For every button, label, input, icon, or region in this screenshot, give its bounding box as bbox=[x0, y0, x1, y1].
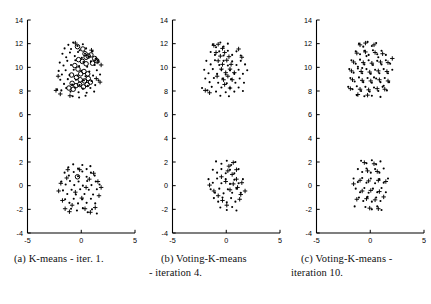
data-point-dot bbox=[213, 77, 215, 79]
data-point-dot bbox=[210, 188, 212, 190]
data-point-plus bbox=[67, 210, 71, 214]
data-point-dot bbox=[220, 168, 222, 170]
data-point-plus bbox=[96, 179, 100, 183]
data-point-dot bbox=[209, 81, 211, 83]
data-point-dot bbox=[371, 201, 373, 203]
data-point-plus bbox=[216, 194, 220, 198]
y-tick-label: 2 bbox=[308, 158, 312, 167]
data-point-dot bbox=[364, 86, 366, 88]
data-point-dot bbox=[368, 54, 370, 56]
data-point-dot bbox=[231, 54, 233, 56]
data-point-plus bbox=[219, 175, 223, 179]
data-point-dot bbox=[353, 72, 355, 74]
data-point-dot bbox=[67, 78, 69, 80]
data-point-plus bbox=[225, 58, 229, 62]
data-point-dot bbox=[90, 198, 92, 200]
data-point-dot bbox=[63, 83, 65, 85]
data-point-dot bbox=[214, 59, 216, 61]
data-point-dot bbox=[385, 191, 387, 193]
data-point-dot bbox=[383, 167, 385, 169]
data-point-dot bbox=[357, 168, 359, 170]
data-point-plus bbox=[224, 70, 228, 74]
data-point-dot bbox=[361, 67, 363, 69]
data-point-dot bbox=[235, 209, 237, 211]
data-point-dot bbox=[78, 96, 80, 98]
data-point-dot bbox=[238, 86, 240, 88]
data-point-plus bbox=[356, 92, 360, 96]
data-point-dot bbox=[86, 180, 88, 182]
data-point-dot bbox=[69, 180, 71, 182]
data-point-plus bbox=[99, 185, 103, 189]
data-point-plus bbox=[224, 179, 228, 183]
series-plus bbox=[203, 42, 247, 207]
data-point-dot bbox=[207, 178, 209, 180]
data-point-dot bbox=[77, 202, 79, 204]
data-point-plus bbox=[99, 63, 103, 67]
data-point-dot bbox=[215, 46, 217, 48]
data-point-plus bbox=[222, 50, 226, 54]
data-point-plus bbox=[239, 192, 243, 196]
y-tick-label: 8 bbox=[308, 87, 312, 96]
caption-a: (a) K-means - iter. 1. bbox=[0, 252, 157, 266]
data-point-dot bbox=[234, 201, 236, 203]
data-point-dot bbox=[201, 87, 203, 89]
data-point-dot bbox=[355, 188, 357, 190]
data-point-dot bbox=[353, 178, 355, 180]
data-point-dot bbox=[244, 63, 246, 65]
data-point-dot bbox=[82, 185, 84, 187]
data-point-dot bbox=[70, 208, 72, 210]
data-point-plus bbox=[207, 183, 211, 187]
data-point-dot bbox=[70, 64, 72, 66]
data-point-dot bbox=[347, 86, 349, 88]
data-point-dot bbox=[203, 69, 205, 71]
data-point-dot bbox=[216, 172, 218, 174]
data-point-dot bbox=[61, 73, 63, 75]
data-point-dot bbox=[372, 49, 374, 51]
data-point-dot bbox=[86, 176, 88, 178]
data-point-dot bbox=[226, 160, 228, 162]
data-point-dot bbox=[65, 56, 67, 58]
data-point-dot bbox=[374, 182, 376, 184]
data-point-dot bbox=[372, 188, 374, 190]
data-point-circle bbox=[67, 86, 72, 91]
data-point-plus bbox=[240, 181, 244, 185]
data-point-dot bbox=[380, 187, 382, 189]
data-point-dot bbox=[60, 89, 62, 91]
caption-c-line-2: iteration 10. bbox=[291, 266, 431, 280]
series-plus bbox=[348, 41, 394, 211]
data-point-dot bbox=[71, 189, 73, 191]
data-point-dot bbox=[226, 209, 228, 211]
data-point-dot bbox=[362, 200, 364, 202]
data-point-plus bbox=[68, 94, 72, 98]
data-point-plus bbox=[58, 92, 62, 96]
data-point-dot bbox=[81, 164, 83, 166]
data-point-dot bbox=[82, 43, 84, 45]
data-point-dot bbox=[384, 77, 386, 79]
data-point-dot bbox=[383, 68, 385, 70]
data-point-dot bbox=[92, 75, 94, 77]
data-point-dot bbox=[64, 172, 66, 174]
data-point-dot bbox=[221, 196, 223, 198]
data-point-dot bbox=[357, 181, 359, 183]
data-point-dot bbox=[373, 86, 375, 88]
data-point-plus bbox=[216, 59, 220, 63]
x-tick-label: 5 bbox=[422, 236, 426, 245]
data-point-dot bbox=[350, 59, 352, 61]
data-point-dot bbox=[73, 171, 75, 173]
data-point-dot bbox=[231, 206, 233, 208]
data-point-dot bbox=[380, 209, 382, 211]
y-tick-label: -2 bbox=[306, 205, 312, 214]
x-tick-label: 0 bbox=[224, 236, 228, 245]
data-point-circle bbox=[84, 62, 89, 67]
data-point-dot bbox=[204, 78, 206, 80]
data-point-dot bbox=[64, 47, 66, 49]
data-point-dot bbox=[77, 51, 79, 53]
data-point-plus bbox=[227, 54, 231, 58]
data-point-plus bbox=[83, 207, 87, 211]
data-point-dot bbox=[354, 205, 356, 207]
caption-b-line-1: (b) Voting-K-means bbox=[161, 252, 304, 266]
data-point-dot bbox=[371, 159, 373, 161]
data-point-dot bbox=[368, 192, 370, 194]
data-point-dot bbox=[246, 69, 248, 71]
data-point-dot bbox=[78, 91, 80, 93]
